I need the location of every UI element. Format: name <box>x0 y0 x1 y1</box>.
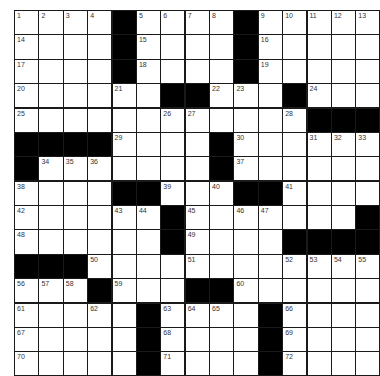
grid-cell[interactable] <box>64 60 87 83</box>
grid-cell[interactable] <box>88 206 111 229</box>
grid-cell[interactable]: 57 <box>39 279 62 302</box>
grid-cell[interactable]: 24 <box>308 84 331 107</box>
grid-cell[interactable] <box>186 133 209 156</box>
grid-cell[interactable] <box>332 60 355 83</box>
grid-cell[interactable] <box>259 84 282 107</box>
grid-cell[interactable] <box>39 35 62 58</box>
grid-cell[interactable] <box>64 352 87 375</box>
grid-cell[interactable] <box>283 157 306 180</box>
grid-cell[interactable]: 31 <box>308 133 331 156</box>
grid-cell[interactable] <box>161 279 184 302</box>
grid-cell[interactable]: 50 <box>88 255 111 278</box>
grid-cell[interactable] <box>137 255 160 278</box>
grid-cell[interactable]: 40 <box>210 182 233 205</box>
grid-cell[interactable]: 23 <box>234 84 257 107</box>
grid-cell[interactable] <box>88 109 111 132</box>
grid-cell[interactable]: 5 <box>137 11 160 34</box>
grid-cell[interactable] <box>113 157 136 180</box>
grid-cell[interactable] <box>113 352 136 375</box>
grid-cell[interactable]: 39 <box>161 182 184 205</box>
grid-cell[interactable] <box>332 352 355 375</box>
grid-cell[interactable]: 67 <box>15 328 38 351</box>
grid-cell[interactable]: 72 <box>283 352 306 375</box>
grid-cell[interactable] <box>210 60 233 83</box>
grid-cell[interactable] <box>39 230 62 253</box>
grid-cell[interactable]: 34 <box>39 157 62 180</box>
grid-cell[interactable]: 59 <box>113 279 136 302</box>
grid-cell[interactable]: 26 <box>161 109 184 132</box>
grid-cell[interactable] <box>88 182 111 205</box>
grid-cell[interactable] <box>88 352 111 375</box>
grid-cell[interactable]: 1 <box>15 11 38 34</box>
grid-cell[interactable] <box>186 60 209 83</box>
grid-cell[interactable] <box>113 230 136 253</box>
grid-cell[interactable]: 35 <box>64 157 87 180</box>
grid-cell[interactable]: 70 <box>15 352 38 375</box>
grid-cell[interactable]: 6 <box>161 11 184 34</box>
grid-cell[interactable]: 58 <box>64 279 87 302</box>
grid-cell[interactable]: 16 <box>259 35 282 58</box>
grid-cell[interactable] <box>308 60 331 83</box>
grid-cell[interactable] <box>137 84 160 107</box>
grid-cell[interactable] <box>356 304 379 327</box>
grid-cell[interactable] <box>88 84 111 107</box>
grid-cell[interactable] <box>39 60 62 83</box>
grid-cell[interactable]: 18 <box>137 60 160 83</box>
grid-cell[interactable] <box>39 84 62 107</box>
grid-cell[interactable] <box>113 328 136 351</box>
grid-cell[interactable] <box>113 304 136 327</box>
grid-cell[interactable]: 9 <box>259 11 282 34</box>
grid-cell[interactable] <box>308 304 331 327</box>
grid-cell[interactable] <box>186 35 209 58</box>
grid-cell[interactable] <box>186 352 209 375</box>
grid-cell[interactable] <box>308 206 331 229</box>
grid-cell[interactable] <box>234 352 257 375</box>
grid-cell[interactable]: 55 <box>356 255 379 278</box>
grid-cell[interactable] <box>259 133 282 156</box>
grid-cell[interactable] <box>64 182 87 205</box>
grid-cell[interactable] <box>210 230 233 253</box>
grid-cell[interactable] <box>356 157 379 180</box>
grid-cell[interactable]: 28 <box>283 109 306 132</box>
grid-cell[interactable]: 49 <box>186 230 209 253</box>
grid-cell[interactable] <box>161 133 184 156</box>
grid-cell[interactable] <box>161 255 184 278</box>
grid-cell[interactable]: 48 <box>15 230 38 253</box>
grid-cell[interactable]: 2 <box>39 11 62 34</box>
grid-cell[interactable] <box>356 352 379 375</box>
grid-cell[interactable]: 69 <box>283 328 306 351</box>
grid-cell[interactable] <box>39 328 62 351</box>
grid-cell[interactable] <box>64 304 87 327</box>
grid-cell[interactable] <box>186 157 209 180</box>
grid-cell[interactable]: 62 <box>88 304 111 327</box>
grid-cell[interactable]: 42 <box>15 206 38 229</box>
grid-cell[interactable] <box>64 206 87 229</box>
grid-cell[interactable]: 54 <box>332 255 355 278</box>
grid-cell[interactable]: 17 <box>15 60 38 83</box>
grid-cell[interactable] <box>113 109 136 132</box>
grid-cell[interactable] <box>259 255 282 278</box>
grid-cell[interactable]: 15 <box>137 35 160 58</box>
grid-cell[interactable] <box>186 182 209 205</box>
grid-cell[interactable] <box>332 84 355 107</box>
grid-cell[interactable] <box>234 255 257 278</box>
grid-cell[interactable] <box>234 109 257 132</box>
grid-cell[interactable] <box>137 109 160 132</box>
grid-cell[interactable]: 56 <box>15 279 38 302</box>
grid-cell[interactable]: 63 <box>161 304 184 327</box>
grid-cell[interactable] <box>161 157 184 180</box>
grid-cell[interactable]: 30 <box>234 133 257 156</box>
grid-cell[interactable] <box>332 304 355 327</box>
grid-cell[interactable] <box>113 255 136 278</box>
grid-cell[interactable] <box>186 328 209 351</box>
grid-cell[interactable] <box>88 328 111 351</box>
grid-cell[interactable]: 43 <box>113 206 136 229</box>
grid-cell[interactable] <box>283 279 306 302</box>
grid-cell[interactable] <box>88 60 111 83</box>
grid-cell[interactable]: 7 <box>186 11 209 34</box>
grid-cell[interactable] <box>356 279 379 302</box>
grid-cell[interactable] <box>332 157 355 180</box>
grid-cell[interactable]: 11 <box>308 11 331 34</box>
grid-cell[interactable]: 52 <box>283 255 306 278</box>
grid-cell[interactable] <box>137 230 160 253</box>
